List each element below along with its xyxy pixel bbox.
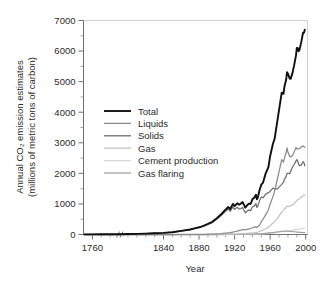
- legend-label-gas-flaring: Gas flaring: [138, 168, 184, 179]
- y-tick-label: 5000: [54, 76, 75, 87]
- y-axis-title-line1: Annual CO₂ emission estimates: [14, 60, 25, 194]
- x-tick-label: 1960: [260, 242, 281, 253]
- x-axis-ticks: [92, 235, 305, 240]
- y-tick-label: 0: [70, 229, 75, 240]
- x-tick-label: 1760: [82, 242, 103, 253]
- x-tick-label: 1840: [153, 242, 174, 253]
- chart-canvas: 01000200030004000500060007000 1760184018…: [0, 0, 332, 285]
- x-axis-tick-labels: 176018401880192019602000: [82, 242, 316, 253]
- y-axis-ticks: [79, 21, 84, 235]
- legend-label-liquids: Liquids: [138, 118, 168, 129]
- legend-label-solids: Solids: [138, 130, 164, 141]
- plot-area-frame: [84, 21, 308, 235]
- y-tick-label: 6000: [54, 45, 75, 56]
- x-axis-title: Year: [185, 263, 204, 274]
- y-tick-label: 3000: [54, 137, 75, 148]
- x-tick-label: 1880: [188, 242, 209, 253]
- series-line-total: [84, 30, 304, 235]
- series-line-solids: [84, 160, 304, 235]
- legend-label-gas: Gas: [138, 143, 156, 154]
- y-tick-label: 7000: [54, 15, 75, 26]
- y-axis-title-line2: (millions of metric tons of carbon): [26, 57, 37, 197]
- co2-emissions-chart-figure: 01000200030004000500060007000 1760184018…: [0, 0, 332, 285]
- y-tick-label: 4000: [54, 107, 75, 118]
- y-tick-label: 1000: [54, 198, 75, 209]
- chart-legend: TotalLiquidsSolidsGasCement productionGa…: [104, 106, 218, 179]
- x-tick-label: 2000: [295, 242, 316, 253]
- y-axis-tick-labels: 01000200030004000500060007000: [54, 15, 75, 240]
- y-tick-label: 2000: [54, 168, 75, 179]
- legend-label-cement-production: Cement production: [138, 155, 218, 166]
- data-series-group: [84, 30, 304, 235]
- legend-label-total: Total: [138, 106, 158, 117]
- x-tick-label: 1920: [224, 242, 245, 253]
